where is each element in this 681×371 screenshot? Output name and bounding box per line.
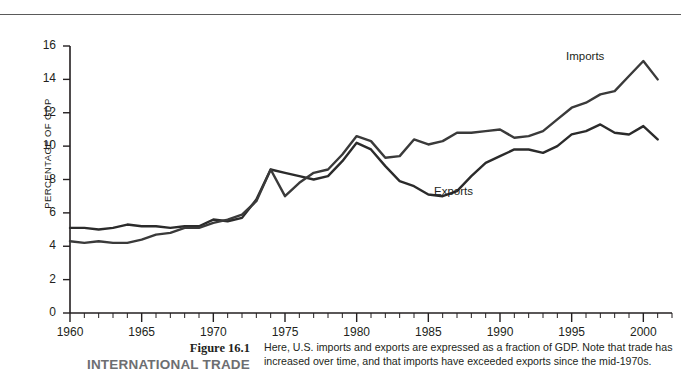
chart-figure: PERCENTAGE OF GDP 0246810121416 19601965… [0, 18, 681, 338]
x-tick-label: 1960 [47, 325, 93, 339]
y-tick-label: 2 [30, 272, 56, 286]
y-tick-label: 4 [30, 238, 56, 252]
line-chart-plot [0, 18, 681, 338]
series-line-imports [70, 61, 658, 243]
data-series-group [70, 61, 658, 243]
y-tick-label: 8 [30, 172, 56, 186]
x-tick-label: 1980 [334, 325, 380, 339]
x-tick-label: 1965 [119, 325, 165, 339]
x-tick-label: 1970 [190, 325, 236, 339]
y-tick-label: 12 [30, 105, 56, 119]
x-tick-label: 1975 [262, 325, 308, 339]
x-tick-label: 1995 [549, 325, 595, 339]
x-tick-label: 2000 [620, 325, 666, 339]
top-divider-rule [0, 14, 681, 15]
y-axis-ticks [63, 46, 70, 313]
caption-line-2: increased over time, and that imports ha… [264, 355, 651, 367]
x-tick-label: 1985 [405, 325, 451, 339]
series-label-imports: Imports [566, 50, 604, 62]
series-label-exports: Exports [434, 185, 473, 197]
axes [70, 46, 672, 313]
figure-page: PERCENTAGE OF GDP 0246810121416 19601965… [0, 0, 681, 371]
x-axis-ticks [70, 313, 672, 322]
figure-title: INTERNATIONAL TRADE [52, 357, 250, 371]
caption-line-1: Here, U.S. imports and exports are expre… [264, 341, 672, 353]
x-tick-label: 1990 [477, 325, 523, 339]
y-tick-label: 0 [30, 305, 56, 319]
figure-number: Figure 16.1 [138, 341, 250, 356]
series-line-exports [70, 124, 658, 229]
y-tick-label: 14 [30, 71, 56, 85]
y-tick-label: 6 [30, 205, 56, 219]
y-tick-label: 16 [30, 38, 56, 52]
y-tick-label: 10 [30, 138, 56, 152]
figure-caption-block: Figure 16.1 INTERNATIONAL TRADE Here, U.… [0, 338, 681, 371]
